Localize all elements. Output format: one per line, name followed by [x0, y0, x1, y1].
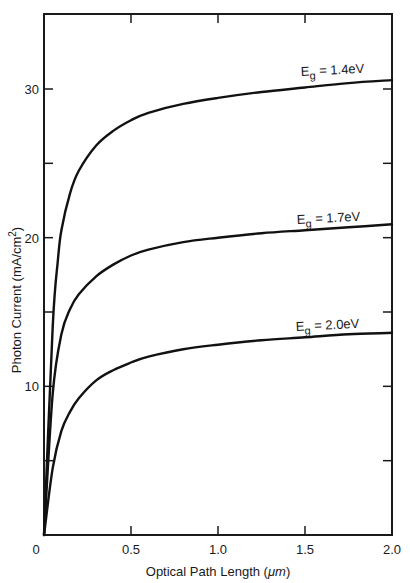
- y-tick-label: 10: [25, 379, 39, 394]
- x-tick-label: 0.5: [122, 542, 140, 557]
- photon-current-chart: 00.51.01.52.0102030 Eg = 1.4eV Eg = 1.7e…: [0, 0, 410, 583]
- x-tick-label: 0: [32, 542, 39, 557]
- data-curves: [44, 80, 392, 535]
- y-tick-label: 30: [25, 82, 39, 97]
- axis-ticks: [44, 14, 392, 535]
- curve-series-2: [44, 333, 392, 535]
- curve-series-0: [44, 80, 392, 535]
- y-axis-title: Photon Current (mA/cm2): [7, 227, 24, 373]
- x-tick-label: 1.5: [296, 542, 314, 557]
- y-tick-label: 20: [25, 231, 39, 246]
- series-label-1.4ev: Eg = 1.4eV: [300, 61, 365, 82]
- plot-frame: [44, 14, 392, 535]
- x-tick-label: 1.0: [209, 542, 227, 557]
- x-axis-title: Optical Path Length (μm): [146, 564, 290, 579]
- x-tick-label: 2.0: [383, 542, 401, 557]
